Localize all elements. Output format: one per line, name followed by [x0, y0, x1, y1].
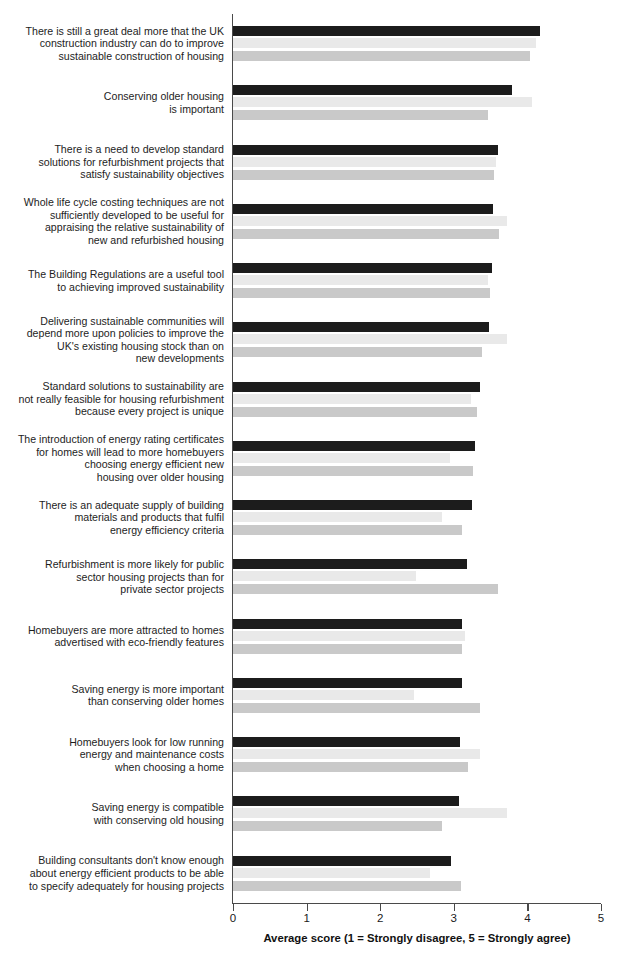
- category-label-line: The Building Regulations are a useful to…: [9, 268, 224, 281]
- bar-series_2: [233, 512, 442, 522]
- category-label: Homebuyers look for low runningenergy an…: [9, 736, 224, 774]
- category-label-line: new and refurbished housing: [9, 234, 224, 247]
- category-label: There is still a great deal more that th…: [9, 25, 224, 63]
- bar-series_3: [233, 229, 499, 239]
- bar-series_1: [233, 559, 467, 569]
- x-tick: [233, 904, 234, 911]
- x-tick-label: 4: [507, 912, 547, 924]
- category-label-line: Refurbishment is more likely for public: [9, 558, 224, 571]
- category-label-line: appraising the relative sustainability o…: [9, 221, 224, 234]
- category-label-line: Whole life cycle costing techniques are …: [9, 196, 224, 209]
- category-label-line: There is a need to develop standard: [9, 143, 224, 156]
- category-label-line: There is still a great deal more that th…: [9, 25, 224, 38]
- bar-group: [233, 310, 601, 358]
- bar-series_3: [233, 347, 482, 357]
- category-label: There is an adequate supply of buildingm…: [9, 499, 224, 537]
- category-label-line: to specify adequately for housing projec…: [9, 880, 224, 893]
- category-label-line: solutions for refurbishment projects tha…: [9, 156, 224, 169]
- category-label-line: energy efficiency criteria: [9, 524, 224, 537]
- category-label-line: Homebuyers look for low running: [9, 736, 224, 749]
- x-axis-title: Average score (1 = Strongly disagree, 5 …: [233, 932, 601, 944]
- category-label: Whole life cycle costing techniques are …: [9, 196, 224, 246]
- category-label-line: Homebuyers are more attracted to homes: [9, 624, 224, 637]
- x-tick-label: 3: [434, 912, 474, 924]
- category-label-line: construction industry can do to improve: [9, 37, 224, 50]
- x-tick: [307, 904, 308, 911]
- bar-group: [233, 784, 601, 832]
- bar-series_3: [233, 525, 462, 535]
- category-label: There is a need to develop standardsolut…: [9, 143, 224, 181]
- category-label-line: materials and products that fulfil: [9, 511, 224, 524]
- bar-series_1: [233, 796, 459, 806]
- bar-series_3: [233, 762, 468, 772]
- bar-series_3: [233, 110, 488, 120]
- bar-series_3: [233, 288, 490, 298]
- bar-series_1: [233, 619, 462, 629]
- bar-series_2: [233, 571, 416, 581]
- bar-series_3: [233, 51, 530, 61]
- category-label: Homebuyers are more attracted to homesad…: [9, 624, 224, 649]
- bar-series_3: [233, 466, 473, 476]
- bar-group: [233, 429, 601, 477]
- x-tick: [527, 904, 528, 911]
- x-tick: [380, 904, 381, 911]
- bar-series_1: [233, 441, 475, 451]
- bar-group: [233, 607, 601, 655]
- category-label-line: not really feasible for housing refurbis…: [9, 393, 224, 406]
- bar-series_2: [233, 453, 450, 463]
- x-tick: [454, 904, 455, 911]
- category-label: The Building Regulations are a useful to…: [9, 268, 224, 293]
- category-label: Saving energy is compatiblewith conservi…: [9, 801, 224, 826]
- category-label: Delivering sustainable communities willd…: [9, 315, 224, 365]
- category-label-line: The introduction of energy rating certif…: [9, 433, 224, 446]
- bar-series_2: [233, 394, 471, 404]
- bar-series_3: [233, 881, 461, 891]
- category-label-line: Standard solutions to sustainability are: [9, 380, 224, 393]
- bar-group: [233, 370, 601, 418]
- x-tick: [601, 904, 602, 911]
- category-label-line: satisfy sustainability objectives: [9, 168, 224, 181]
- bar-group: [233, 844, 601, 892]
- category-label-line: depend more upon policies to improve the: [9, 327, 224, 340]
- x-axis-line: [232, 903, 601, 904]
- bar-series_3: [233, 584, 498, 594]
- bar-group: [233, 14, 601, 62]
- category-label-line: because every project is unique: [9, 405, 224, 418]
- bar-series_1: [233, 500, 472, 510]
- bar-series_3: [233, 644, 462, 654]
- bar-series_2: [233, 157, 496, 167]
- category-label-line: advertised with eco-friendly features: [9, 636, 224, 649]
- bar-series_1: [233, 263, 492, 273]
- category-label-line: housing over older housing: [9, 471, 224, 484]
- category-label-line: energy and maintenance costs: [9, 748, 224, 761]
- category-label-line: when choosing a home: [9, 761, 224, 774]
- bar-series_3: [233, 821, 442, 831]
- bar-series_2: [233, 334, 507, 344]
- bar-series_1: [233, 145, 498, 155]
- bar-series_1: [233, 856, 451, 866]
- category-label: Standard solutions to sustainability are…: [9, 380, 224, 418]
- category-label-line: UK's existing housing stock than on: [9, 340, 224, 353]
- x-tick-label: 0: [213, 912, 253, 924]
- bar-series_1: [233, 26, 540, 36]
- bar-series_3: [233, 407, 477, 417]
- bar-series_3: [233, 170, 494, 180]
- category-label: Conserving older housingis important: [9, 90, 224, 115]
- horizontal-bar-chart: 012345 Average score (1 = Strongly disag…: [0, 0, 622, 967]
- category-label-line: Building consultants don't know enough: [9, 854, 224, 867]
- category-label-line: Delivering sustainable communities will: [9, 315, 224, 328]
- bar-series_1: [233, 322, 489, 332]
- bar-group: [233, 547, 601, 595]
- bar-group: [233, 73, 601, 121]
- bar-series_2: [233, 868, 430, 878]
- category-label-line: sufficiently developed to be useful for: [9, 209, 224, 222]
- category-label-line: sustainable construction of housing: [9, 50, 224, 63]
- category-label-line: with conserving old housing: [9, 814, 224, 827]
- category-label-line: than conserving older homes: [9, 695, 224, 708]
- bar-group: [233, 725, 601, 773]
- bar-group: [233, 488, 601, 536]
- x-tick-label: 5: [581, 912, 621, 924]
- bar-series_1: [233, 85, 512, 95]
- bar-series_2: [233, 275, 488, 285]
- bar-series_1: [233, 678, 462, 688]
